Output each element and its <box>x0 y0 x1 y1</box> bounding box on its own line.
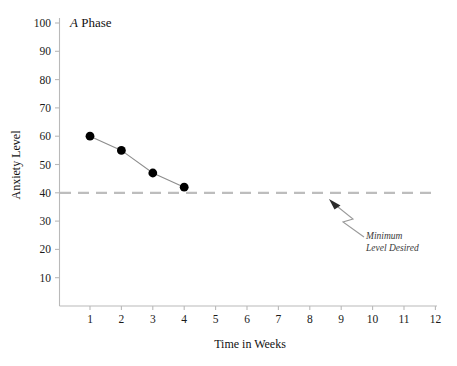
x-tick-label-10: 10 <box>367 313 379 325</box>
x-tick-label-4: 4 <box>181 313 187 325</box>
y-tick-label-10: 10 <box>40 272 52 284</box>
x-tick-label-6: 6 <box>244 313 250 325</box>
anxiety-level-line-chart: A Phase 100 90 80 70 60 50 40 30 20 10 <box>0 0 457 366</box>
y-tick-label-40: 40 <box>40 187 52 199</box>
y-tick-label-80: 80 <box>40 74 52 86</box>
y-axis-title: Anxiety Level <box>9 130 23 200</box>
series-line-anxiety <box>90 136 184 187</box>
x-tick-label-12: 12 <box>430 313 442 325</box>
y-tick-label-100: 100 <box>34 17 52 29</box>
y-tick-label-30: 30 <box>40 215 52 227</box>
annotation-text-line-2: Level Desired <box>365 243 419 253</box>
phase-label-rest: Phase <box>78 15 112 30</box>
data-point-week-4 <box>180 183 189 192</box>
x-tick-label-1: 1 <box>87 313 93 325</box>
y-tick-label-90: 90 <box>40 45 52 57</box>
x-tick-label-5: 5 <box>213 313 219 325</box>
x-tick-label-8: 8 <box>307 313 313 325</box>
x-tick-label-3: 3 <box>150 313 156 325</box>
y-tick-label-60: 60 <box>40 130 52 142</box>
y-tick-label-20: 20 <box>40 243 52 255</box>
chart-figure: A Phase 100 90 80 70 60 50 40 30 20 10 <box>0 0 457 366</box>
data-point-week-3 <box>148 169 157 178</box>
phase-label-italic: A <box>69 15 78 30</box>
y-tick-label-70: 70 <box>40 102 52 114</box>
annotation-leader-line <box>333 203 364 237</box>
data-point-week-1 <box>86 132 95 141</box>
annotation-text-line-1: Minimum <box>365 231 403 241</box>
y-tick-label-50: 50 <box>40 159 52 171</box>
x-tick-label-11: 11 <box>398 313 409 325</box>
phase-label: A Phase <box>69 15 112 30</box>
x-tick-label-9: 9 <box>338 313 344 325</box>
x-axis-title: Time in Weeks <box>214 337 286 351</box>
data-point-week-2 <box>117 146 126 155</box>
x-tick-label-2: 2 <box>119 313 125 325</box>
x-tick-label-7: 7 <box>276 313 282 325</box>
